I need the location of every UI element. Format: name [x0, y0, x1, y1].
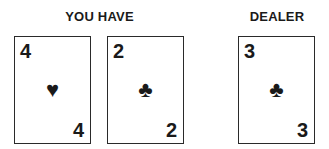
club-icon: ♣: [239, 79, 314, 101]
card-rank-bottom: 3: [297, 120, 308, 140]
card-rank-bottom: 4: [73, 120, 84, 140]
card-rank-top: 3: [244, 41, 255, 61]
card-rank-bottom: 2: [166, 120, 177, 140]
heart-icon: ♥: [15, 79, 90, 101]
player-card-2[interactable]: 2 ♣ 2: [107, 36, 184, 144]
dealer-card-1[interactable]: 3 ♣ 3: [238, 36, 315, 144]
dealer-hand-label: DEALER: [238, 9, 316, 24]
player-hand-label: YOU HAVE: [14, 9, 185, 24]
card-rank-top: 4: [20, 41, 31, 61]
player-card-1[interactable]: 4 ♥ 4: [14, 36, 91, 144]
club-icon: ♣: [108, 79, 183, 101]
card-rank-top: 2: [113, 41, 124, 61]
